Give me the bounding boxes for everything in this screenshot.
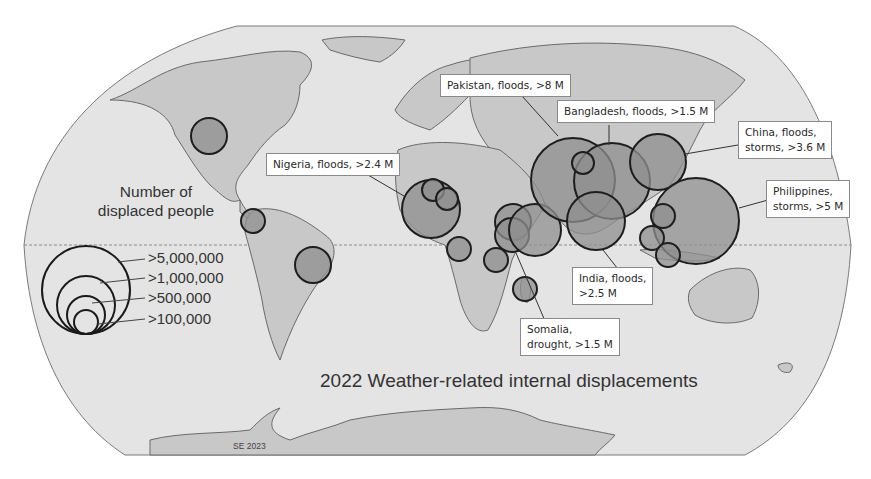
circle-vietnam: [651, 204, 675, 228]
world-map: [0, 0, 871, 479]
circle-madagascar: [513, 277, 537, 301]
circle-india: [567, 192, 625, 250]
circle-chad: [436, 188, 458, 210]
credit-label: SE 2023: [233, 441, 266, 451]
legend-title-line2: displaced people: [96, 201, 216, 220]
callout-pakistan: Pakistan, floods, >8 M: [440, 74, 571, 97]
callout-china: China, floods, storms, >3.6 M: [738, 121, 832, 159]
circle-kenya: [484, 248, 508, 272]
legend-value-500k: >500,000: [148, 289, 211, 306]
callout-nigeria: Nigeria, floods, >2.4 M: [266, 153, 400, 176]
circle-afghanistan: [572, 152, 594, 174]
callout-india: India, floods, >2.5 M: [572, 267, 653, 305]
circle-indonesia: [656, 243, 680, 267]
circle-usa: [191, 118, 227, 154]
legend-title: Number of displaced people: [96, 182, 216, 220]
callout-philippines: Philippines, storms, >5 M: [766, 180, 850, 218]
circle-brazil: [295, 247, 331, 283]
legend-value-1m: >1,000,000: [148, 269, 224, 286]
legend-value-100k: >100,000: [148, 310, 211, 327]
map-title: 2022 Weather-related internal displaceme…: [320, 370, 698, 392]
legend-title-line1: Number of: [96, 182, 216, 201]
legend-value-5m: >5,000,000: [148, 249, 224, 266]
circle-central-america: [241, 209, 265, 233]
callout-somalia: Somalia, drought, >1.5 M: [520, 318, 620, 356]
callout-bangladesh: Bangladesh, floods, >1.5 M: [557, 100, 715, 123]
circle-congo: [447, 237, 471, 261]
